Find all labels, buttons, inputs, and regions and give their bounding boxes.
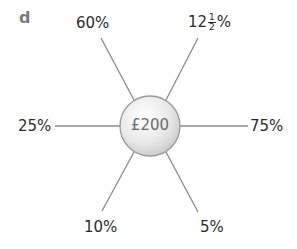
spoke-line-bottom-right — [166, 152, 198, 212]
spoke-line-top-left — [101, 38, 134, 100]
label-bottom-left: 10% — [84, 220, 117, 235]
part-label: d — [19, 8, 30, 27]
spoke-line-bottom-left — [102, 152, 134, 211]
label-bottom-right: 5% — [200, 220, 224, 235]
label-whole: 12 — [188, 13, 207, 31]
label-top-left: 60% — [76, 16, 109, 31]
label-left: 25% — [18, 119, 51, 134]
fraction: 12 — [208, 13, 216, 32]
label-right: 75% — [250, 119, 283, 134]
center-value: £200 — [120, 116, 180, 134]
spoke-line-top-right — [166, 38, 198, 100]
label-top-right: 1212% — [188, 13, 231, 32]
